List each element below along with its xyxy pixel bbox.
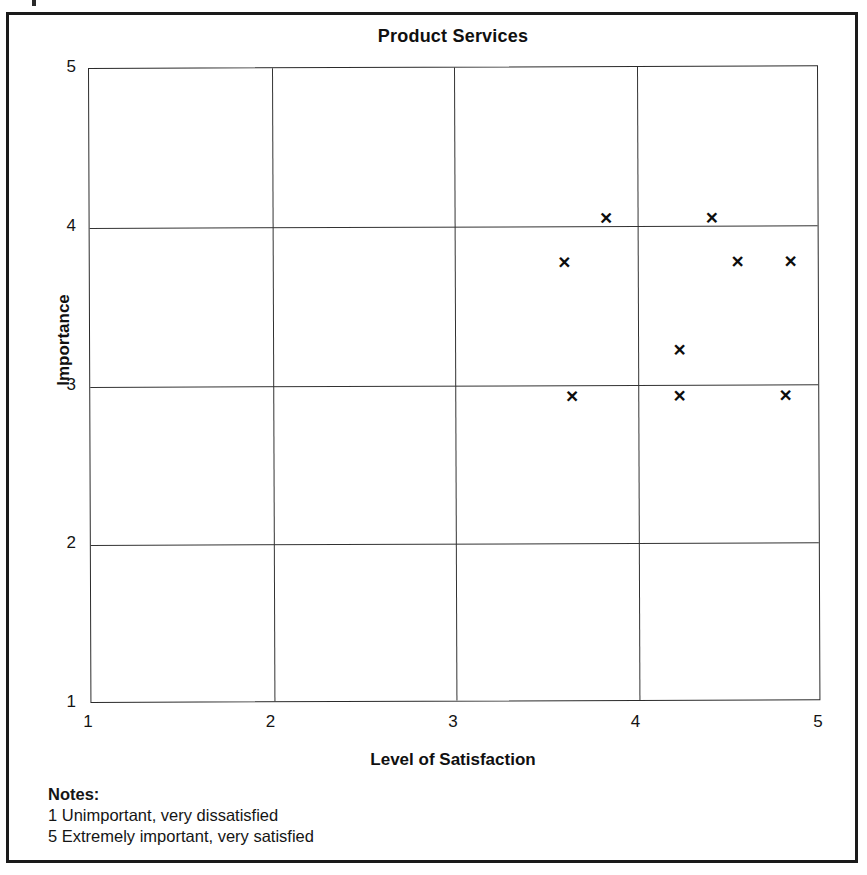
gridline-vertical <box>454 68 457 701</box>
scan-artifact-speck <box>32 0 36 6</box>
notes-line: 1 Unimportant, very dissatisfied <box>48 805 314 826</box>
page-root: Product Services Importance 54321 ××××××… <box>0 0 867 875</box>
data-point-marker: × <box>595 207 617 229</box>
plot-area: ××××××××× <box>88 65 820 703</box>
y-tick-label: 2 <box>46 533 76 553</box>
notes-block: Notes: 1 Unimportant, very dissatisfied … <box>48 784 314 847</box>
data-point-marker: × <box>775 384 797 406</box>
notes-line: 5 Extremely important, very satisfied <box>48 826 314 847</box>
data-point-marker: × <box>553 251 575 273</box>
x-axis-ticks: 12345 <box>88 712 818 738</box>
x-tick-label: 4 <box>616 712 656 732</box>
data-point-marker: × <box>561 385 583 407</box>
x-axis-label: Level of Satisfaction <box>88 750 818 770</box>
gridline-vertical <box>272 68 275 701</box>
y-tick-label: 3 <box>46 375 76 395</box>
y-tick-label: 5 <box>46 57 76 77</box>
y-tick-label: 1 <box>46 692 76 712</box>
chart-title: Product Services <box>88 26 818 47</box>
gridline-vertical <box>636 67 639 700</box>
plot-inner: ××××××××× <box>89 66 819 702</box>
data-point-marker: × <box>780 251 802 273</box>
x-tick-label: 5 <box>798 712 838 732</box>
data-point-marker: × <box>727 251 749 273</box>
x-tick-label: 1 <box>68 712 108 732</box>
data-point-marker: × <box>701 206 723 228</box>
data-point-marker: × <box>669 338 691 360</box>
y-axis-ticks: 54321 <box>42 68 76 703</box>
x-tick-label: 3 <box>433 712 473 732</box>
x-tick-label: 2 <box>251 712 291 732</box>
y-tick-label: 4 <box>46 216 76 236</box>
data-point-marker: × <box>669 384 691 406</box>
notes-heading: Notes: <box>48 784 314 805</box>
